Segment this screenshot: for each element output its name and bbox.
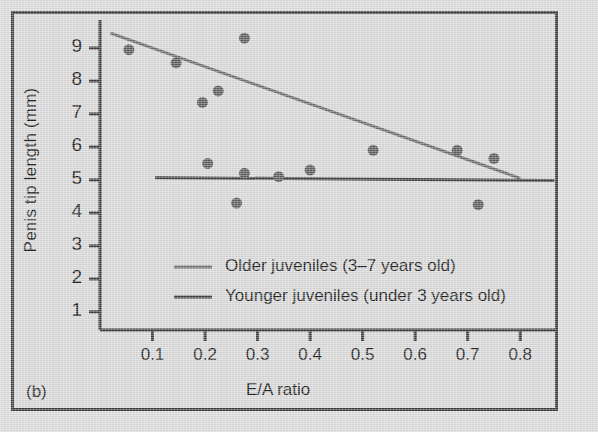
trend-line-younger: [155, 178, 554, 181]
data-point: [123, 44, 134, 55]
data-point: [171, 57, 182, 68]
x-tick-label: 0.3: [236, 345, 280, 365]
data-point: [452, 145, 463, 156]
data-point: [213, 85, 224, 96]
y-tick-label: 2: [56, 266, 82, 288]
y-tick-label: 1: [56, 299, 82, 321]
y-axis-ticks: [89, 48, 100, 312]
x-axis-title: E/A ratio: [246, 380, 310, 400]
data-point: [273, 171, 284, 182]
y-tick-label: 5: [56, 167, 82, 189]
data-point: [231, 198, 242, 209]
data-point: [202, 158, 213, 169]
y-axis-title: Penis tip length (mm): [21, 55, 41, 285]
data-point: [488, 153, 499, 164]
x-axis-ticks: [153, 330, 521, 341]
y-tick-label: 8: [56, 68, 82, 90]
figure-panel: Penis tip length (mm) E/A ratio (b) 1234…: [0, 0, 598, 432]
legend-label-0: Older juveniles (3–7 years old): [225, 256, 456, 276]
data-point: [239, 168, 250, 179]
data-point: [305, 165, 316, 176]
y-tick-label: 3: [56, 233, 82, 255]
data-point: [368, 145, 379, 156]
x-tick-label: 0.5: [341, 345, 385, 365]
trend-line-older: [111, 33, 521, 178]
data-point: [197, 97, 208, 108]
y-tick-label: 6: [56, 134, 82, 156]
axes: [100, 20, 557, 330]
scatter-plot-canvas: [0, 0, 598, 432]
x-tick-label: 0.6: [393, 345, 437, 365]
y-tick-label: 9: [56, 35, 82, 57]
data-point-markers: [123, 33, 499, 211]
x-tick-label: 0.7: [446, 345, 490, 365]
data-point: [239, 33, 250, 44]
legend-line-swatches: [174, 267, 212, 297]
data-point: [473, 199, 484, 210]
y-tick-label: 7: [56, 101, 82, 123]
x-tick-label: 0.1: [131, 345, 175, 365]
x-tick-label: 0.2: [183, 345, 227, 365]
y-tick-label: 4: [56, 200, 82, 222]
regression-lines: [111, 33, 555, 180]
panel-letter-label: (b): [26, 382, 47, 402]
x-tick-label: 0.8: [498, 345, 542, 365]
x-tick-label: 0.4: [288, 345, 332, 365]
legend-label-1: Younger juveniles (under 3 years old): [225, 286, 506, 306]
